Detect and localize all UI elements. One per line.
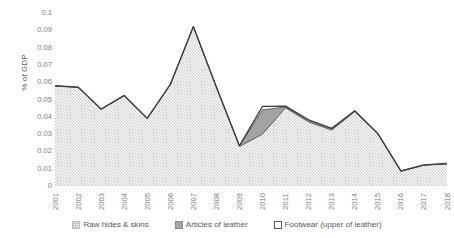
- y-axis-tick-label: 0.03: [24, 130, 52, 138]
- y-axis-tick-label: 0.07: [24, 61, 52, 69]
- x-axis-tick-label: 2018: [432, 188, 454, 206]
- legend-label: Raw hides & skins: [83, 220, 148, 229]
- y-axis-tick-label: 0.02: [24, 147, 52, 155]
- legend-item[interactable]: Raw hides & skins: [72, 220, 148, 229]
- legend-label: Articles of leather: [186, 220, 248, 229]
- y-axis-tick-label: 0.1: [24, 9, 52, 17]
- legend-item[interactable]: Footwear (upper of leather): [274, 220, 382, 229]
- legend-item[interactable]: Articles of leather: [175, 220, 248, 229]
- legend-label: Footwear (upper of leather): [285, 220, 382, 229]
- outline-square-icon: [274, 221, 282, 229]
- y-axis-tick-label: 0.04: [24, 113, 52, 121]
- y-axis-tick-label: 0.05: [24, 96, 52, 104]
- y-axis-tick-label: 0.06: [24, 78, 52, 86]
- chart-container: % of GDP 00.010.020.030.040.050.060.070.…: [0, 0, 454, 238]
- y-axis-tick-label: 0.01: [24, 165, 52, 173]
- x-axis-tick-labels: 2001200220032004200520062007200820092010…: [55, 188, 447, 222]
- filled-square-icon: [175, 221, 183, 229]
- y-axis-tick-label: 0.09: [24, 26, 52, 34]
- area-series-1: [55, 27, 447, 186]
- dotted-square-icon: [72, 221, 80, 229]
- chart-legend: Raw hides & skinsArticles of leatherFoot…: [0, 220, 454, 229]
- plot-area: [55, 13, 447, 186]
- series-layers: [55, 26, 447, 186]
- y-axis-tick-label: 0.08: [24, 44, 52, 52]
- stacked-area-plot: [55, 13, 447, 186]
